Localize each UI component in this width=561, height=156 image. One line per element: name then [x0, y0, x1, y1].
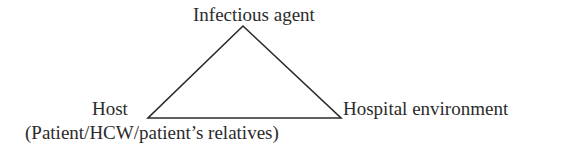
host-label: Host [92, 99, 128, 118]
hospital-environment-label: Hospital environment [343, 99, 508, 118]
triangle-outline [148, 26, 341, 118]
host-sublabel: (Patient/HCW/patient’s relatives) [25, 123, 279, 142]
infectious-agent-label: Infectious agent [193, 5, 315, 24]
triangle-diagram: Infectious agent Host (Patient/HCW/patie… [0, 0, 561, 156]
